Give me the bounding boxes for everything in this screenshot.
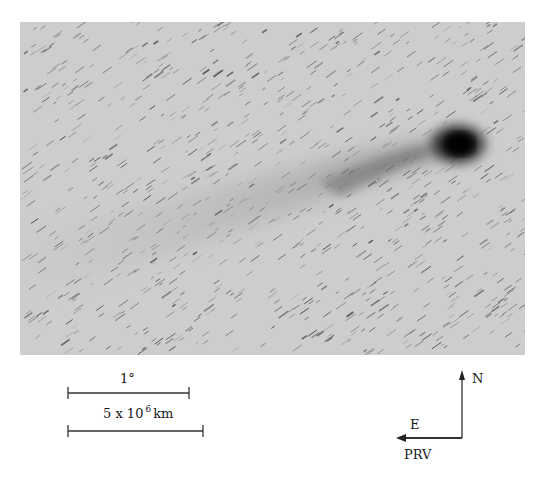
km-label-base: 5 x 10 xyxy=(103,406,143,421)
km-label-unit: km xyxy=(153,406,173,421)
west-arrowhead-icon xyxy=(396,434,406,442)
km-label-exponent: 6 xyxy=(145,404,151,414)
scale-label-degree: 1° xyxy=(120,371,135,386)
compass-north-label: N xyxy=(472,371,483,386)
scale-label-km: 5 x 106km xyxy=(103,406,173,421)
north-arrowhead-icon xyxy=(459,370,465,380)
compass-east-label: E xyxy=(410,417,420,432)
compass-prv-label: PRV xyxy=(404,447,431,462)
annotations xyxy=(0,0,546,477)
